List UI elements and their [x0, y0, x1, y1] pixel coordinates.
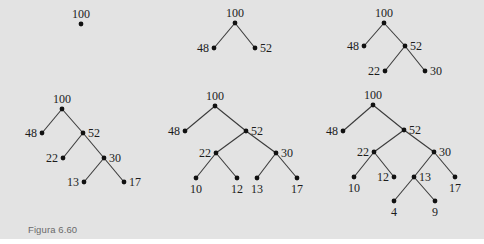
tree-edge	[42, 109, 62, 133]
tree-edge	[62, 109, 83, 133]
tree-node	[233, 21, 238, 26]
node-label: 17	[449, 181, 461, 195]
tree-node	[295, 176, 300, 181]
tree-node	[253, 46, 258, 51]
node-label: 48	[326, 124, 338, 138]
tree-edge	[215, 106, 246, 131]
node-label: 48	[168, 124, 180, 138]
node-label: 22	[46, 151, 58, 165]
node-label: 10	[348, 181, 360, 195]
node-label: 30	[109, 151, 121, 165]
tree-edge	[364, 23, 384, 46]
tree-node	[213, 104, 218, 109]
tree-node	[433, 199, 438, 204]
tree-node	[403, 44, 408, 49]
node-label: 30	[439, 145, 451, 159]
node-label: 100	[226, 6, 244, 20]
tree-edge	[84, 158, 104, 182]
tree-edge	[374, 130, 404, 152]
tree-2: 1004852	[197, 6, 272, 55]
node-label: 22	[199, 146, 211, 160]
tree-6: 100485222301012131749	[326, 88, 461, 219]
node-label: 52	[251, 124, 263, 138]
tree-3: 10048522230	[347, 6, 442, 78]
tree-edge	[394, 177, 414, 201]
tree-node	[392, 175, 397, 180]
tree-node	[122, 180, 127, 185]
tree-node	[392, 199, 397, 204]
tree-node	[402, 128, 407, 133]
node-label: 30	[281, 146, 293, 160]
node-label: 52	[410, 39, 422, 53]
node-label: 48	[25, 126, 37, 140]
node-label: 100	[72, 7, 90, 21]
tree-edge	[214, 23, 235, 48]
tree-5: 1004852223010121317	[168, 89, 303, 196]
tree-edge	[216, 131, 246, 153]
tree-edge	[235, 23, 255, 48]
tree-node	[79, 22, 84, 27]
tree-node	[214, 151, 219, 156]
tree-edge	[257, 153, 276, 178]
node-label: 30	[430, 64, 442, 78]
node-label: 100	[375, 6, 393, 20]
tree-node	[383, 69, 388, 74]
tree-node	[244, 129, 249, 134]
tree-node	[274, 151, 279, 156]
tree-node	[82, 180, 87, 185]
node-label: 100	[364, 88, 382, 102]
node-label: 10	[190, 182, 202, 196]
tree-node	[60, 107, 65, 112]
node-label: 22	[357, 145, 369, 159]
tree-edge	[373, 105, 404, 130]
tree-node	[352, 175, 357, 180]
tree-node	[341, 129, 346, 134]
tree-node	[453, 175, 458, 180]
tree-edge	[185, 106, 215, 131]
tree-node	[255, 176, 260, 181]
tree-node	[412, 175, 417, 180]
node-label: 12	[231, 182, 243, 196]
tree-1: 100	[72, 7, 90, 26]
tree-node	[212, 46, 217, 51]
node-label: 4	[391, 205, 397, 219]
tree-node	[40, 131, 45, 136]
node-label: 13	[251, 182, 263, 196]
tree-node	[382, 21, 387, 26]
tree-node	[371, 103, 376, 108]
tree-node	[362, 44, 367, 49]
tree-edge	[384, 23, 405, 46]
tree-node	[372, 150, 377, 155]
tree-node	[61, 156, 66, 161]
node-label: 9	[432, 205, 438, 219]
tree-node	[183, 129, 188, 134]
tree-node	[194, 176, 199, 181]
figure-caption: Figura 6.60	[28, 224, 77, 235]
binary-tree-diagram: 1001004852100485222301004852223013171004…	[0, 0, 484, 244]
tree-node	[432, 150, 437, 155]
tree-edge	[63, 133, 83, 158]
node-label: 100	[53, 92, 71, 106]
tree-node	[423, 69, 428, 74]
tree-node	[102, 156, 107, 161]
node-label: 52	[409, 123, 421, 137]
node-label: 13	[67, 175, 79, 189]
node-label: 52	[88, 126, 100, 140]
node-label: 17	[129, 175, 141, 189]
tree-node	[235, 176, 240, 181]
tree-edge	[343, 105, 373, 131]
tree-edge	[216, 153, 237, 178]
tree-edge	[385, 46, 405, 71]
node-label: 13	[419, 170, 431, 184]
tree-node	[81, 131, 86, 136]
node-label: 48	[347, 39, 359, 53]
node-label: 48	[197, 41, 209, 55]
node-label: 22	[368, 64, 380, 78]
tree-4: 100485222301317	[25, 92, 141, 189]
node-label: 52	[260, 41, 272, 55]
node-label: 100	[206, 89, 224, 103]
node-label: 12	[377, 170, 389, 184]
node-label: 17	[291, 182, 303, 196]
